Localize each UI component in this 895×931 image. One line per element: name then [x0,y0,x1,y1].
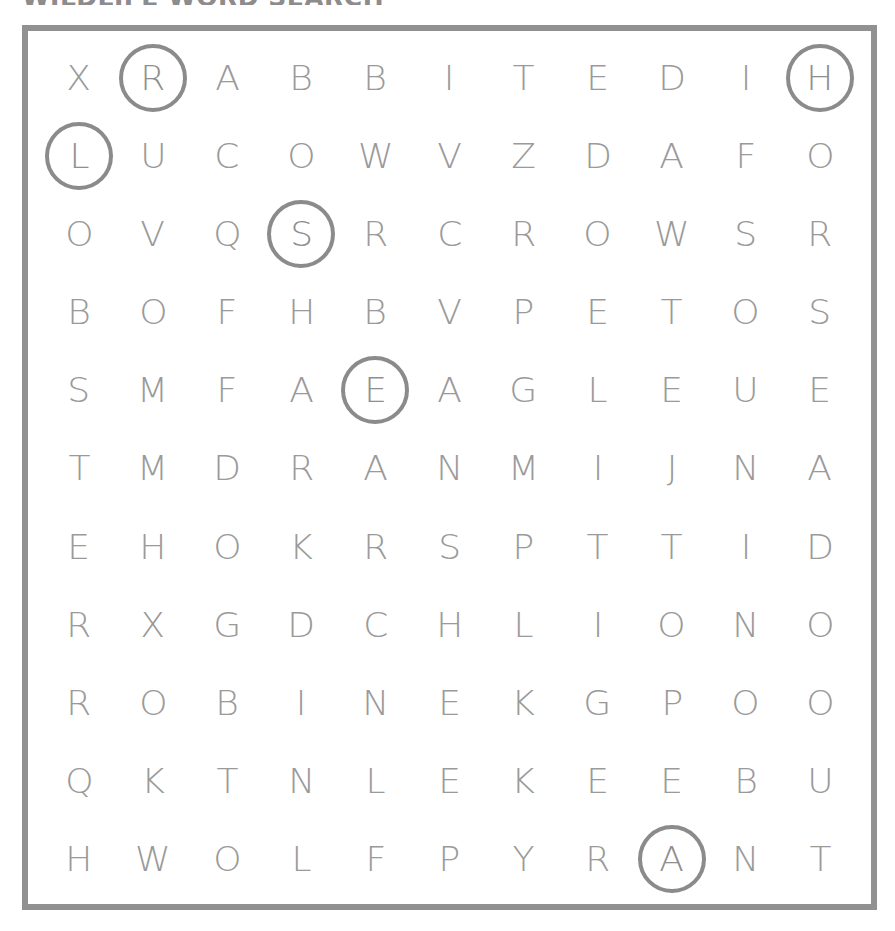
grid-cell[interactable]: R [783,195,857,273]
grid-cell[interactable]: Q [190,195,264,273]
grid-cell[interactable]: I [561,586,635,664]
grid-cell[interactable]: S [709,195,783,273]
grid-cell[interactable]: X [42,39,116,117]
grid-cell[interactable]: S [412,508,486,586]
grid-cell[interactable]: N [338,664,412,742]
grid-cell[interactable]: M [487,429,561,507]
grid-cell[interactable]: O [635,586,709,664]
grid-cell[interactable]: O [709,273,783,351]
grid-cell[interactable]: K [264,508,338,586]
grid-cell[interactable]: U [783,742,857,820]
grid-cell[interactable]: F [190,273,264,351]
grid-cell[interactable]: O [264,117,338,195]
grid-cell[interactable]: D [635,39,709,117]
grid-cell[interactable]: E [42,508,116,586]
grid-cell[interactable]: E [561,39,635,117]
grid-cell[interactable]: O [116,273,190,351]
grid-cell[interactable]: G [561,664,635,742]
grid-cell[interactable]: I [264,664,338,742]
grid-cell[interactable]: K [487,742,561,820]
grid-cell[interactable]: A [412,351,486,429]
grid-cell[interactable]: F [190,351,264,429]
grid-cell[interactable]: R [42,664,116,742]
grid-cell[interactable]: N [264,742,338,820]
grid-cell[interactable]: U [116,117,190,195]
grid-cell[interactable]: X [116,586,190,664]
grid-cell[interactable]: E [338,351,412,429]
grid-cell[interactable]: A [635,820,709,898]
grid-cell[interactable]: N [709,820,783,898]
grid-cell[interactable]: L [561,351,635,429]
grid-cell[interactable]: E [561,742,635,820]
grid-cell[interactable]: D [561,117,635,195]
grid-cell[interactable]: B [338,39,412,117]
grid-cell[interactable]: A [338,429,412,507]
grid-cell[interactable]: E [635,742,709,820]
grid-cell[interactable]: D [190,429,264,507]
grid-cell[interactable]: H [412,586,486,664]
grid-cell[interactable]: E [783,351,857,429]
grid-cell[interactable]: Q [42,742,116,820]
grid-cell[interactable]: A [190,39,264,117]
grid-cell[interactable]: N [709,429,783,507]
grid-cell[interactable]: R [42,586,116,664]
grid-cell[interactable]: G [190,586,264,664]
grid-cell[interactable]: I [412,39,486,117]
grid-cell[interactable]: G [487,351,561,429]
grid-cell[interactable]: L [487,586,561,664]
grid-cell[interactable]: L [264,820,338,898]
grid-cell[interactable]: N [412,429,486,507]
grid-cell[interactable]: O [116,664,190,742]
grid-cell[interactable]: E [412,742,486,820]
grid-cell[interactable]: P [635,664,709,742]
grid-cell[interactable]: Y [487,820,561,898]
grid-cell[interactable]: I [561,429,635,507]
grid-cell[interactable]: B [42,273,116,351]
grid-cell[interactable]: T [783,820,857,898]
grid-cell[interactable]: W [338,117,412,195]
grid-cell[interactable]: L [42,117,116,195]
grid-cell[interactable]: E [561,273,635,351]
grid-cell[interactable]: O [709,664,783,742]
grid-cell[interactable]: B [338,273,412,351]
grid-cell[interactable]: K [116,742,190,820]
grid-cell[interactable]: D [264,586,338,664]
grid-cell[interactable]: S [783,273,857,351]
grid-cell[interactable]: B [264,39,338,117]
grid-cell[interactable]: F [338,820,412,898]
grid-cell[interactable]: T [487,39,561,117]
grid-cell[interactable]: O [190,508,264,586]
grid-cell[interactable]: F [709,117,783,195]
grid-cell[interactable]: T [635,508,709,586]
grid-cell[interactable]: M [116,429,190,507]
grid-cell[interactable]: H [264,273,338,351]
letter-grid[interactable]: XRABBITEDIHLUCOWVZDAFOOVQSRCROWSRBOFHBVP… [28,31,871,904]
grid-cell[interactable]: T [42,429,116,507]
grid-cell[interactable]: A [783,429,857,507]
grid-cell[interactable]: H [116,508,190,586]
grid-cell[interactable]: C [412,195,486,273]
grid-cell[interactable]: U [709,351,783,429]
grid-cell[interactable]: W [635,195,709,273]
grid-cell[interactable]: V [116,195,190,273]
grid-cell[interactable]: I [709,39,783,117]
grid-cell[interactable]: R [338,508,412,586]
grid-cell[interactable]: R [487,195,561,273]
grid-cell[interactable]: E [635,351,709,429]
grid-cell[interactable]: H [42,820,116,898]
grid-cell[interactable]: C [190,117,264,195]
grid-cell[interactable]: W [116,820,190,898]
grid-cell[interactable]: T [190,742,264,820]
grid-cell[interactable]: C [338,586,412,664]
grid-cell[interactable]: I [709,508,783,586]
grid-cell[interactable]: A [635,117,709,195]
grid-cell[interactable]: A [264,351,338,429]
grid-cell[interactable]: O [783,117,857,195]
grid-cell[interactable]: R [338,195,412,273]
grid-cell[interactable]: K [487,664,561,742]
grid-cell[interactable]: L [338,742,412,820]
grid-cell[interactable]: V [412,273,486,351]
grid-cell[interactable]: R [116,39,190,117]
grid-cell[interactable]: P [487,508,561,586]
grid-cell[interactable]: H [783,39,857,117]
